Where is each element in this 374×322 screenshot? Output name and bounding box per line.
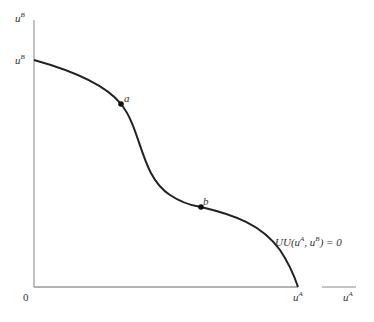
point-a-marker (118, 101, 124, 107)
x-intercept-label: uA (293, 292, 303, 303)
utility-frontier-diagram (0, 0, 374, 322)
y-axis-label: uB (15, 13, 25, 24)
y-intercept-label: uB (15, 55, 25, 66)
point-b-label: b (203, 196, 209, 207)
point-a-label: a (124, 93, 130, 104)
x-axis-label: uA (343, 292, 353, 303)
utility-possibility-curve (34, 60, 298, 287)
curve-equation-label: UU(uA, uB) = 0 (275, 237, 342, 248)
origin-label: 0 (23, 292, 29, 303)
